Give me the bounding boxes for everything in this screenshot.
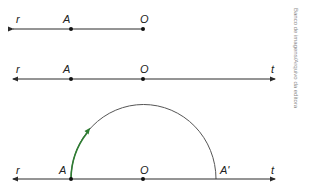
diagram-straight-angle: r A O A' t: [13, 104, 275, 181]
label-o: O: [140, 63, 149, 75]
label-a: A: [62, 13, 70, 25]
point-a-dot: [69, 27, 73, 31]
point-o-dot: [141, 27, 145, 31]
point-a-dot: [69, 177, 73, 181]
point-a-dot: [69, 77, 73, 81]
image-credit: Banco de imagens/Arquivo da editora: [290, 4, 304, 104]
point-o-dot: [141, 77, 145, 81]
label-a-prime: A': [219, 164, 230, 176]
diagram-ray-oa: r A O: [13, 13, 149, 31]
label-r: r: [16, 164, 21, 176]
arc-direction-arrow-icon: [85, 128, 91, 135]
diagram-line-rt: r A O t: [13, 63, 275, 81]
label-t: t: [271, 63, 275, 75]
label-r: r: [16, 63, 21, 75]
point-o-dot: [141, 177, 145, 181]
label-a: A: [62, 63, 70, 75]
angle-diagram: r A O r A O t r A O A' t: [0, 0, 310, 187]
label-t: t: [271, 164, 275, 176]
label-r: r: [16, 13, 21, 25]
label-a: A: [58, 164, 66, 176]
label-o: O: [140, 13, 149, 25]
highlight-arc: [71, 133, 87, 179]
label-o: O: [140, 164, 149, 176]
credit-text: Banco de imagens/Arquivo da editora: [293, 8, 299, 108]
